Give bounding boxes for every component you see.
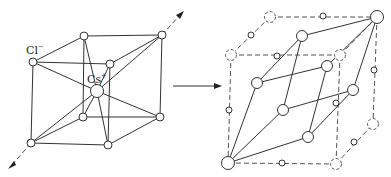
cl-label: Cl− [26, 43, 44, 57]
cl-ion [156, 113, 164, 121]
cs-ion [91, 85, 104, 98]
axis-arrowhead-upper [176, 11, 184, 19]
rhombohedral-cell [222, 11, 384, 170]
cscl-cube [8, 11, 184, 169]
cl-ion [79, 113, 87, 121]
diagram-canvas [0, 0, 391, 177]
cs-label: Cs+ [87, 72, 107, 86]
cl-ion [158, 31, 166, 39]
cl-ion [27, 139, 35, 147]
cl-ion [106, 60, 114, 68]
cl-ion [29, 58, 37, 66]
cl-ion [104, 141, 112, 149]
transform-arrow [173, 83, 222, 89]
cl-ion [80, 32, 88, 40]
